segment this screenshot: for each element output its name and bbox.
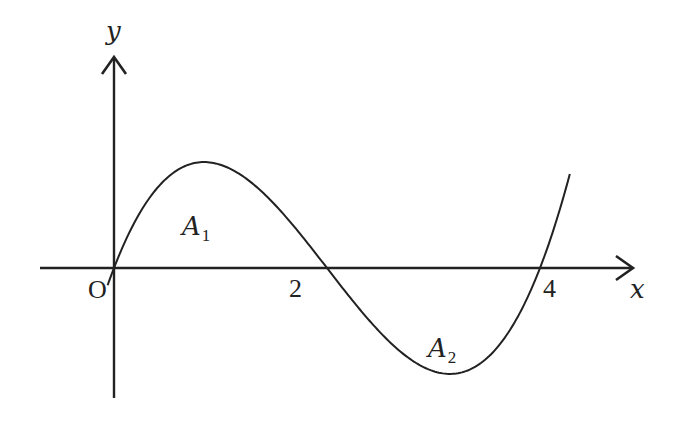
region-label-a2: A2 <box>426 333 456 367</box>
x-axis-label: x <box>630 274 645 304</box>
tick-label-4: 4 <box>543 274 556 303</box>
region-label-a1: A1 <box>180 211 210 245</box>
origin-label: O <box>88 275 107 304</box>
y-axis-label: y <box>105 16 121 46</box>
tick-label-2: 2 <box>289 274 302 303</box>
y-axis <box>102 57 126 398</box>
cubic-area-diagram: y x O 2 4 A1 A2 <box>0 0 682 423</box>
